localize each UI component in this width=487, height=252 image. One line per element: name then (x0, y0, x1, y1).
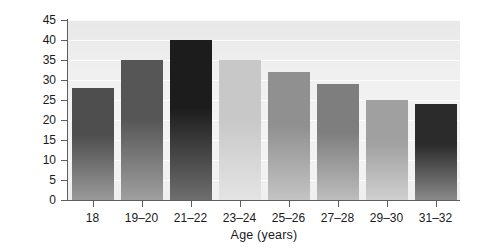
gridline (68, 40, 460, 41)
y-axis-tick-label: 30 (16, 74, 56, 86)
y-axis-tick-label: 5 (16, 174, 56, 186)
bar (219, 60, 261, 200)
x-axis-tick (142, 201, 143, 207)
bar (121, 60, 163, 200)
y-axis-tick (61, 200, 67, 201)
bar (170, 40, 212, 200)
bar (415, 104, 457, 200)
y-axis-tick-label: 35 (16, 54, 56, 66)
y-axis-tick (61, 120, 67, 121)
y-axis-tick (61, 100, 67, 101)
x-axis-tick (436, 201, 437, 207)
x-axis-tick (338, 201, 339, 207)
y-axis-line (67, 19, 68, 201)
bar (366, 100, 408, 200)
x-axis-title: Age (years) (68, 228, 460, 242)
x-axis-line (67, 200, 460, 201)
y-axis-tick-label: 40 (16, 34, 56, 46)
x-axis-tick (240, 201, 241, 207)
y-axis-tick (61, 140, 67, 141)
y-axis-tick (61, 180, 67, 181)
x-axis-tick (289, 201, 290, 207)
y-axis-tick (61, 60, 67, 61)
bar (268, 72, 310, 200)
y-axis-tick-label: 10 (16, 154, 56, 166)
y-axis-tick (61, 160, 67, 161)
y-axis-tick-label: 20 (16, 114, 56, 126)
y-axis-tick (61, 80, 67, 81)
x-axis-tick-label: 31–32 (401, 211, 471, 225)
x-axis-tick (93, 201, 94, 207)
gridline (68, 20, 460, 21)
y-axis-tick (61, 40, 67, 41)
x-axis-tick (387, 201, 388, 207)
y-axis-tick-label: 15 (16, 134, 56, 146)
plot-area (68, 20, 460, 200)
y-axis-tick (61, 20, 67, 21)
bar (72, 88, 114, 200)
y-axis-tick-label: 25 (16, 94, 56, 106)
bar-chart: Percent 051015202530354045 1819–2021–222… (0, 0, 487, 252)
bar (317, 84, 359, 200)
y-axis-tick-label: 45 (16, 14, 56, 26)
y-axis-tick-label: 0 (16, 194, 56, 206)
x-axis-tick (191, 201, 192, 207)
